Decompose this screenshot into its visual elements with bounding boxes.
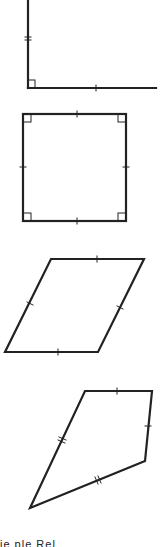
quadrilaterals-diagram: [0, 0, 161, 547]
caption-text: ie ple Rel: [0, 536, 161, 547]
right-angle-shape: [25, 0, 156, 91]
kite-shape: [30, 388, 152, 508]
rhombus-shape: [5, 256, 144, 355]
square-shape: [20, 111, 129, 224]
